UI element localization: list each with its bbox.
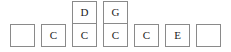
box-diagram: D G C C C C E <box>0 0 231 52</box>
bottom-row-label-6: E <box>174 30 181 41</box>
bottom-row-label-3: C <box>81 29 88 40</box>
bottom-row-cell-6[interactable]: E <box>165 24 190 47</box>
bottom-row-cell-3[interactable]: C <box>72 24 97 47</box>
bottom-row-cell-1[interactable] <box>10 24 35 47</box>
box-grid: D G C C C C E <box>10 1 221 47</box>
bottom-row-label-4: C <box>112 29 119 40</box>
top-row-label-3: D <box>81 7 89 18</box>
bottom-row-cell-7[interactable] <box>196 24 221 47</box>
bottom-row-cell-2[interactable]: C <box>41 24 66 47</box>
top-row-label-4: G <box>112 7 120 18</box>
bottom-row-label-2: C <box>50 30 57 41</box>
top-row-cell-4[interactable]: G <box>103 1 128 24</box>
bottom-row-cell-4[interactable]: C <box>103 24 128 47</box>
bottom-row-cell-5[interactable]: C <box>134 24 159 47</box>
top-row-cell-3[interactable]: D <box>72 1 97 24</box>
bottom-row-label-5: C <box>143 30 150 41</box>
